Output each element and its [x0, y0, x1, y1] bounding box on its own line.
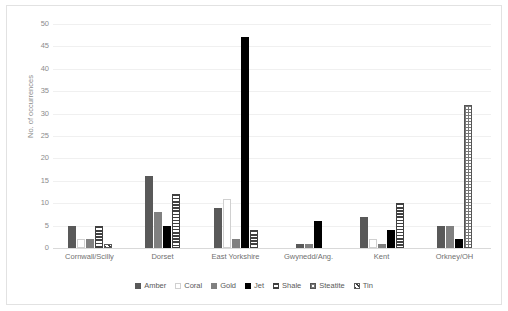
y-tick-label-25: 25 — [15, 132, 49, 140]
y-tick-label-10: 10 — [15, 199, 49, 207]
legend-label: Shale — [282, 281, 301, 290]
bar-amber[interactable] — [360, 217, 368, 248]
legend-label: Amber — [144, 281, 166, 290]
x-axis-category-labels: Cornwall/ScillyDorsetEast YorkshireGwyne… — [53, 252, 491, 261]
bar-amber[interactable] — [68, 226, 76, 248]
y-tick-label-45: 45 — [15, 42, 49, 50]
y-tick-label-20: 20 — [15, 154, 49, 162]
bar-shale[interactable] — [250, 230, 258, 248]
legend-item-amber[interactable]: Amber — [135, 281, 166, 290]
legend-swatch-gold-icon — [211, 283, 217, 289]
bar-amber[interactable] — [437, 226, 445, 248]
bar-gold[interactable] — [446, 226, 454, 248]
bar-jet[interactable] — [455, 239, 463, 248]
x-label-dorset: Dorset — [126, 252, 199, 261]
bar-jet[interactable] — [163, 226, 171, 248]
bar-groups — [53, 24, 491, 248]
bar-gold[interactable] — [86, 239, 94, 248]
x-label-cornwall-scilly: Cornwall/Scilly — [53, 252, 126, 261]
legend-item-steatite[interactable]: Steatite — [310, 281, 344, 290]
legend-swatch-shale-icon — [273, 283, 279, 289]
bar-group-kent — [345, 24, 418, 248]
legend-item-coral[interactable]: Coral — [175, 281, 202, 290]
bar-group-dorset — [126, 24, 199, 248]
bar-jet[interactable] — [387, 230, 395, 248]
bar-tin[interactable] — [104, 244, 112, 248]
legend-label: Coral — [184, 281, 202, 290]
bars — [199, 24, 272, 248]
legend-label: Gold — [220, 281, 236, 290]
legend-item-gold[interactable]: Gold — [211, 281, 236, 290]
y-tick-label-0: 0 — [15, 244, 49, 252]
bar-shale[interactable] — [95, 226, 103, 248]
bar-steatite[interactable] — [464, 105, 472, 248]
bars — [53, 24, 126, 248]
bar-gold[interactable] — [154, 212, 162, 248]
y-tick-label-15: 15 — [15, 177, 49, 185]
y-tick-label-40: 40 — [15, 65, 49, 73]
y-axis-tick-labels: 50454035302520151050 — [7, 24, 49, 248]
bar-shale[interactable] — [172, 194, 180, 248]
chart-container: No. of occurrences 50454035302520151050 … — [6, 5, 502, 305]
bar-group-gwynedd-ang — [272, 24, 345, 248]
x-label-gwynedd-ang: Gwynedd/Ang. — [272, 252, 345, 261]
chart-legend: AmberCoralGoldJetShaleSteatiteTin — [7, 281, 501, 290]
x-label-orkney-oh: Orkney/OH — [418, 252, 491, 261]
legend-swatch-jet-icon — [245, 283, 251, 289]
legend-swatch-steatite-icon — [310, 283, 316, 289]
y-tick-label-50: 50 — [15, 20, 49, 28]
legend-label: Steatite — [319, 281, 344, 290]
bar-jet[interactable] — [241, 37, 249, 248]
bar-group-east-yorkshire — [199, 24, 272, 248]
x-label-kent: Kent — [345, 252, 418, 261]
legend-item-shale[interactable]: Shale — [273, 281, 301, 290]
bar-gold[interactable] — [305, 244, 313, 248]
bar-coral[interactable] — [77, 239, 85, 248]
legend-swatch-amber-icon — [135, 283, 141, 289]
bar-shale[interactable] — [396, 203, 404, 248]
bar-group-orkney-oh — [418, 24, 491, 248]
y-tick-label-5: 5 — [15, 222, 49, 230]
legend-item-jet[interactable]: Jet — [245, 281, 264, 290]
legend-label: Tin — [363, 281, 373, 290]
gridline-0 — [53, 248, 491, 249]
bar-gold[interactable] — [232, 239, 240, 248]
y-tick-label-30: 30 — [15, 110, 49, 118]
bar-amber[interactable] — [214, 208, 222, 248]
bar-coral[interactable] — [223, 199, 231, 248]
bar-amber[interactable] — [145, 176, 153, 248]
legend-swatch-coral-icon — [175, 283, 181, 289]
bars — [272, 24, 345, 248]
bars — [345, 24, 418, 248]
bar-jet[interactable] — [314, 221, 322, 248]
bar-coral[interactable] — [369, 239, 377, 248]
legend-label: Jet — [254, 281, 264, 290]
bars — [126, 24, 199, 248]
bars — [418, 24, 491, 248]
y-tick-label-35: 35 — [15, 87, 49, 95]
plot-area — [53, 24, 491, 248]
x-label-east-yorkshire: East Yorkshire — [199, 252, 272, 261]
legend-swatch-tin-icon — [354, 283, 360, 289]
legend-item-tin[interactable]: Tin — [354, 281, 373, 290]
bar-group-cornwall-scilly — [53, 24, 126, 248]
bar-gold[interactable] — [378, 244, 386, 248]
bar-amber[interactable] — [296, 244, 304, 248]
